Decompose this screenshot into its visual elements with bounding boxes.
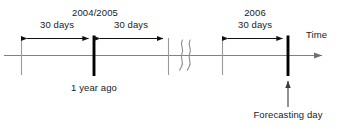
annotation-forecasting-day: Forecasting day — [253, 110, 322, 120]
group-title-current: 2006 — [244, 8, 266, 18]
group-title-past: 2004/2005 — [72, 8, 118, 18]
timeline-diagram: 2004/2005 30 days 30 days 1 year ago 200… — [0, 0, 350, 129]
span-label-past-after: 30 days — [114, 20, 148, 30]
axis-label-time: Time — [306, 30, 327, 40]
span-label-past-before: 30 days — [40, 20, 74, 30]
annotation-one-year-ago: 1 year ago — [71, 83, 117, 93]
span-label-current-before: 30 days — [238, 20, 272, 30]
